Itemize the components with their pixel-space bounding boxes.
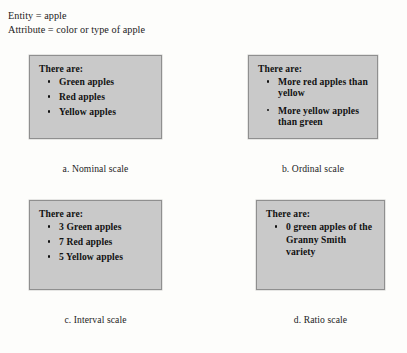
- list-item-label: More yellow apples than green: [278, 105, 359, 127]
- panel-nominal-caption: a. Nominal scale: [29, 163, 162, 174]
- list-item: Red apples: [59, 91, 155, 103]
- entity-line: Entity = apple: [8, 9, 145, 23]
- bullet-dot-icon: [267, 80, 269, 82]
- panel-ratio-lead: There are:: [266, 208, 378, 220]
- panel-nominal-box: There are: Green apples Red apples Yello…: [29, 55, 162, 139]
- list-item-label: 7 Red apples: [59, 236, 112, 247]
- figure-header: Entity = apple Attribute = color or type…: [8, 9, 145, 36]
- figure-canvas: Entity = apple Attribute = color or type…: [0, 0, 407, 353]
- list-item: Green apples: [59, 76, 155, 88]
- list-item: 3 Green apples: [59, 221, 155, 233]
- list-item: More red apples than yellow: [278, 76, 371, 99]
- list-item-label: 3 Green apples: [59, 221, 122, 232]
- panel-interval-list: 3 Green apples 7 Red apples 5 Yellow app…: [39, 221, 155, 263]
- panel-ratio-box: There are: 0 green apples of the Granny …: [256, 200, 385, 290]
- panel-ordinal-box: There are: More red apples than yellow M…: [248, 55, 378, 139]
- attribute-line: Attribute = color or type of apple: [8, 23, 145, 37]
- panel-ordinal-list: More red apples than yellow More yellow …: [258, 76, 371, 128]
- panel-nominal-lead: There are:: [39, 63, 155, 75]
- list-item-label: Yellow apples: [59, 106, 116, 117]
- panel-ordinal-caption: b. Ordinal scale: [248, 163, 378, 174]
- list-item: 7 Red apples: [59, 236, 155, 248]
- panel-interval-lead: There are:: [39, 208, 155, 220]
- list-item: 0 green apples of the Granny Smith varie…: [286, 221, 378, 259]
- bullet-dot-icon: [48, 240, 50, 242]
- list-item: More yellow apples than green: [278, 105, 371, 128]
- panel-ratio-caption: d. Ratio scale: [256, 314, 385, 325]
- bullet-dot-icon: [48, 80, 50, 82]
- bullet-dot-icon: [275, 225, 277, 227]
- panel-ratio-list: 0 green apples of the Granny Smith varie…: [266, 221, 378, 259]
- list-item-label: More red apples than yellow: [278, 76, 368, 98]
- bullet-dot-icon: [48, 95, 50, 97]
- list-item-label: 0 green apples of the Granny Smith varie…: [286, 221, 372, 257]
- list-item-label: Green apples: [59, 76, 114, 87]
- panel-nominal-list: Green apples Red apples Yellow apples: [39, 76, 155, 118]
- panel-ordinal-lead: There are:: [258, 63, 371, 75]
- list-item-label: 5 Yellow apples: [59, 251, 123, 262]
- list-item: Yellow apples: [59, 106, 155, 118]
- bullet-dot-icon: [48, 255, 50, 257]
- list-item-label: Red apples: [59, 91, 105, 102]
- bullet-dot-icon: [48, 110, 50, 112]
- panel-interval-box: There are: 3 Green apples 7 Red apples 5…: [29, 200, 162, 290]
- bullet-dot-icon: [267, 109, 269, 111]
- panel-interval-caption: c. Interval scale: [29, 314, 162, 325]
- list-item: 5 Yellow apples: [59, 251, 155, 263]
- bullet-dot-icon: [48, 225, 50, 227]
